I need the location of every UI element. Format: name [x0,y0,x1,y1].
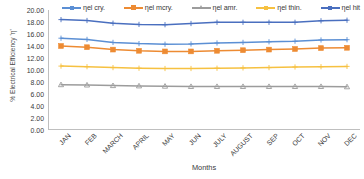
y-axis-tick: 10.00 [8,67,44,74]
x-axis-tick: FEB [84,132,98,146]
y-axis-tick: 20.00 [8,7,44,14]
series-4 [58,17,349,27]
y-axis-tick: 6.00 [8,91,44,98]
series-0 [58,36,349,47]
x-axis-tick-labels: JANFEBMARCHAPRILMAYJUNJULYAUGUSTSEPOCTNO… [48,132,360,162]
x-axis-tick: MARCH [101,132,124,155]
y-axis-tick: 18.00 [8,19,44,26]
y-axis-tick: 14.00 [8,43,44,50]
x-axis-tick: AUGUST [229,132,254,157]
x-axis-title: Months [48,163,360,172]
y-axis-tick: 2.00 [8,115,44,122]
y-axis-tick: 8.00 [8,79,44,86]
y-axis-tick-labels: 20.0018.0016.0014.0012.0010.008.006.004.… [8,10,44,130]
y-axis-tick: 0.00 [8,127,44,134]
series-1 [59,44,350,54]
x-axis-tick: JULY [211,132,228,149]
x-axis-tick: DEC [343,132,358,147]
series-2 [58,82,349,89]
x-axis-tick: APRIL [131,132,150,151]
x-axis-tick: NOV [316,132,332,148]
series-3 [58,64,349,72]
axis-lines [48,10,360,130]
chart-container: ηel cry.ηel mcry.ηel amr.ηel thin.ηel hi… [0,0,364,179]
x-axis-tick: JUN [188,132,202,146]
x-axis-tick: MAY [161,132,176,147]
x-axis-tick: OCT [291,132,306,147]
y-axis-tick: 12.00 [8,55,44,62]
y-axis-tick: 16.00 [8,31,44,38]
y-axis-tick: 4.00 [8,103,44,110]
series-canvas [48,10,360,130]
x-axis-tick: SEP [265,132,280,147]
plot-area [48,10,360,130]
x-axis-tick: JAN [58,132,72,146]
